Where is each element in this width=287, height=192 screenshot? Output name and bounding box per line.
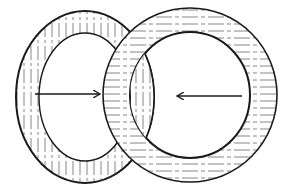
diagram-svg — [0, 0, 287, 192]
interlocking-rings-diagram — [0, 0, 287, 192]
right-ring — [103, 8, 277, 182]
